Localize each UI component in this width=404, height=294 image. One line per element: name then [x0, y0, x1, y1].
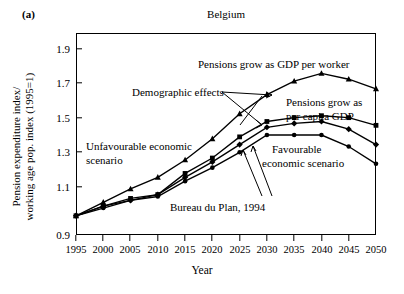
- data-point-triangle: [155, 174, 161, 180]
- series-layer: [0, 0, 404, 294]
- data-point-circle: [183, 179, 188, 184]
- annotation-unfavourable-line1: Unfavourable economic: [86, 140, 192, 153]
- annotation-demographic-effects: Demographic effects: [132, 86, 224, 99]
- data-point-circle: [156, 194, 161, 199]
- annotation-gdp-per-worker: Pensions grow as GDP per worker: [198, 58, 349, 71]
- data-point-circle: [292, 133, 297, 138]
- data-point-circle: [374, 162, 379, 167]
- data-point-circle: [319, 133, 324, 138]
- annotation-per-capita-gdp-line2: per capita GDP: [286, 110, 354, 123]
- annotation-favourable-line1: Favourable: [272, 143, 321, 156]
- data-point-triangle: [237, 111, 243, 117]
- data-point-circle: [128, 198, 133, 203]
- data-point-square: [265, 119, 270, 124]
- data-point-square: [237, 134, 242, 139]
- data-point-circle: [210, 165, 215, 170]
- data-point-circle: [265, 133, 270, 138]
- annotation-leader-line-4: [251, 146, 272, 196]
- annotation-per-capita-gdp-line1: Pensions grow as: [286, 96, 362, 109]
- data-point-circle: [74, 213, 79, 218]
- annotation-leader-line-3: [241, 150, 262, 196]
- data-point-square: [374, 123, 379, 128]
- annotation-unfavourable-line2: scenario: [86, 154, 123, 167]
- annotation-bureau-du-plan: Bureau du Plan, 1994: [170, 201, 265, 214]
- annotation-favourable-line2: economic scenario: [262, 157, 344, 170]
- data-point-diamond: [346, 126, 352, 132]
- data-point-circle: [346, 144, 351, 149]
- data-point-triangle: [318, 70, 324, 76]
- chart-figure: (a) Belgium Pension expenditure index/ w…: [0, 0, 404, 294]
- data-point-diamond: [373, 141, 379, 147]
- data-point-circle: [101, 206, 106, 211]
